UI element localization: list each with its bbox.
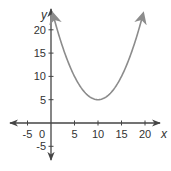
x-tick-label: -5 [23, 128, 33, 140]
series [53, 14, 143, 100]
origin-label: 0 [39, 128, 45, 140]
x-axis-label: x [160, 127, 168, 141]
x-tick-label: 20 [139, 128, 151, 140]
x-tick-label: 5 [71, 128, 77, 140]
parabola-chart: -55101520-55101520 x y 0 [0, 0, 171, 171]
y-tick-label: 10 [34, 70, 46, 82]
y-axis-label: y [40, 8, 48, 22]
y-tick-label: 20 [34, 24, 46, 36]
x-tick-label: 10 [92, 128, 104, 140]
y-tick-label: -5 [36, 140, 46, 152]
y-tick-label: 5 [40, 94, 46, 106]
x-tick-label: 15 [115, 128, 127, 140]
y-tick-label: 15 [34, 47, 46, 59]
parabola-curve [53, 14, 143, 100]
